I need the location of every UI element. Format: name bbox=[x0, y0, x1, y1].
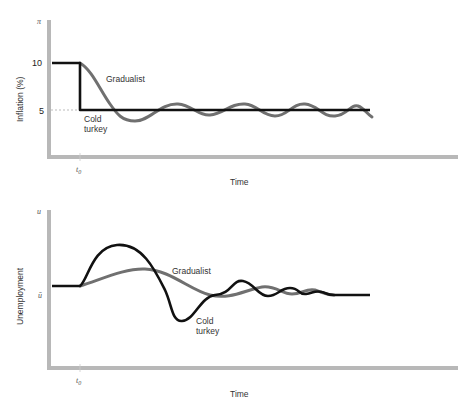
y-axis-label: Inflation (%) bbox=[15, 76, 25, 122]
x-tick-t0: t0 bbox=[76, 376, 81, 386]
x-axis-label: Time bbox=[230, 389, 249, 399]
unemployment-chart: u Unemployment ū t0 Time Gradualist Cold… bbox=[15, 207, 458, 399]
y-axis-symbol-pi: π bbox=[37, 17, 42, 26]
y-tick-ubar: ū bbox=[38, 291, 42, 300]
figure: π Inflation (%) 10 5 t0 Time Gradualist … bbox=[0, 0, 471, 415]
y-axis-symbol-u: u bbox=[37, 207, 41, 216]
label-gradualist: Gradualist bbox=[106, 74, 145, 84]
inflation-chart: π Inflation (%) 10 5 t0 Time Gradualist … bbox=[15, 17, 458, 187]
x-axis-label: Time bbox=[230, 177, 249, 187]
y-tick-5: 5 bbox=[39, 106, 44, 116]
y-axis-label: Unemployment bbox=[15, 267, 25, 325]
cold-turkey-line bbox=[52, 245, 370, 321]
gradualist-line bbox=[80, 63, 372, 121]
y-tick-10: 10 bbox=[32, 58, 42, 68]
label-cold: Cold bbox=[196, 316, 214, 326]
label-turkey: turkey bbox=[84, 124, 108, 134]
x-tick-t0: t0 bbox=[76, 165, 81, 175]
label-cold: Cold bbox=[84, 114, 102, 124]
label-gradualist: Gradualist bbox=[172, 266, 211, 276]
label-turkey: turkey bbox=[196, 326, 220, 336]
